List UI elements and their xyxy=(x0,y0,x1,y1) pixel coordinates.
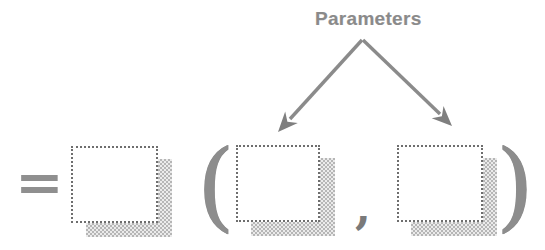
parameter-2-box xyxy=(397,145,483,222)
parameters-diagram: Parameters = ( , ) xyxy=(0,0,545,250)
equals-sign: = xyxy=(15,156,64,208)
open-paren: ( xyxy=(197,141,235,231)
close-paren: ) xyxy=(496,141,534,231)
comma-separator: , xyxy=(355,184,371,230)
parameters-label: Parameters xyxy=(315,8,403,30)
arrow-down-right-icon xyxy=(363,40,452,126)
function-box xyxy=(71,146,158,223)
parameter-1-box xyxy=(236,145,320,222)
arrow-down-left-icon xyxy=(278,40,362,132)
